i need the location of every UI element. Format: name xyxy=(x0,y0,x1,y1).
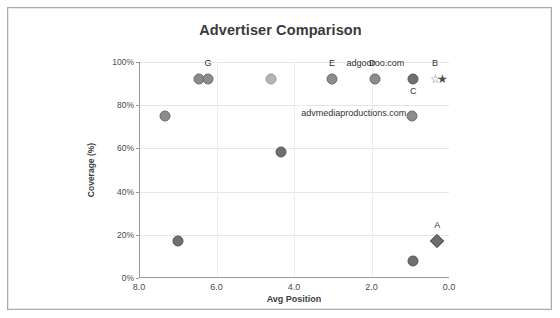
data-point-label: C xyxy=(410,86,417,96)
y-tick-mark xyxy=(136,278,139,279)
data-point-label: B xyxy=(432,58,438,68)
y-tick-mark xyxy=(136,105,139,106)
chart-title: Advertiser Comparison xyxy=(8,22,553,38)
y-tick-label: 100% xyxy=(95,57,139,67)
data-point-circle[interactable] xyxy=(159,111,170,122)
data-point-label: E xyxy=(329,58,335,68)
data-point-circle[interactable] xyxy=(276,146,287,157)
x-tick-label: 4.0 xyxy=(272,282,316,292)
y-tick-label: 80% xyxy=(95,100,139,110)
y-tick-label: 40% xyxy=(95,187,139,197)
x-tick-label: 0.0 xyxy=(427,282,471,292)
y-axis-line xyxy=(139,62,140,278)
data-point-circle[interactable] xyxy=(408,74,419,85)
y-tick-label: 20% xyxy=(95,230,139,240)
y-tick-mark xyxy=(136,235,139,236)
y-tick-label: 60% xyxy=(95,143,139,153)
gridline-vertical xyxy=(294,62,295,277)
data-point-label: adgooroo.com xyxy=(347,58,405,68)
data-point-label: A xyxy=(434,220,440,230)
y-tick-mark xyxy=(136,148,139,149)
data-point-circle[interactable] xyxy=(265,74,276,85)
chart-screenshot: Advertiser Comparison Coverage (%) Avg P… xyxy=(0,0,560,318)
data-point-circle[interactable] xyxy=(370,74,381,85)
data-point-circle[interactable] xyxy=(408,255,419,266)
plot-area: 0%20%40%60%80%100% 8.06.04.02.00.0 ☆★ GE… xyxy=(139,62,449,278)
x-tick-label: 8.0 xyxy=(117,282,161,292)
x-axis-title: Avg Position xyxy=(139,294,449,304)
data-point-label: advmediaproductions.com xyxy=(301,108,406,118)
x-tick-label: 2.0 xyxy=(350,282,394,292)
data-point-circle[interactable] xyxy=(202,74,213,85)
y-axis-title: Coverage (%) xyxy=(86,62,100,278)
gridline-vertical xyxy=(217,62,218,277)
gridline-vertical xyxy=(372,62,373,277)
data-point-circle[interactable] xyxy=(407,111,418,122)
data-point-circle[interactable] xyxy=(172,236,183,247)
y-tick-mark xyxy=(136,192,139,193)
y-tick-mark xyxy=(136,62,139,63)
x-tick-label: 6.0 xyxy=(195,282,239,292)
data-point-label: G xyxy=(204,58,211,68)
chart-window-frame: Advertiser Comparison Coverage (%) Avg P… xyxy=(7,7,552,310)
x-axis-line xyxy=(139,277,449,278)
data-point-circle[interactable] xyxy=(326,74,337,85)
data-point-star-filled[interactable]: ★ xyxy=(436,73,448,85)
data-point-diamond[interactable] xyxy=(430,234,444,248)
